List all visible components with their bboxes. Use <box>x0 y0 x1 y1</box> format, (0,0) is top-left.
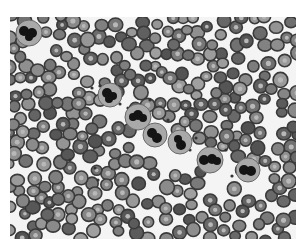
red-blood-cell <box>204 232 217 239</box>
red-blood-cell <box>207 40 218 50</box>
red-blood-cell <box>254 219 265 230</box>
red-blood-cell <box>87 224 101 238</box>
red-blood-cell <box>277 196 290 207</box>
red-blood-cell <box>81 208 96 222</box>
red-blood-cell <box>84 52 98 65</box>
red-blood-cell <box>152 20 163 30</box>
red-blood-cell <box>143 217 154 227</box>
red-blood-cell <box>272 143 285 155</box>
red-blood-cell <box>174 204 186 215</box>
red-blood-cell <box>137 26 150 39</box>
red-blood-cell <box>10 201 16 212</box>
platelet <box>230 174 233 177</box>
red-blood-cell <box>66 213 77 224</box>
red-blood-cell <box>191 177 205 189</box>
red-blood-cell <box>129 155 144 169</box>
red-blood-cell <box>52 98 63 109</box>
red-blood-cell <box>86 123 98 134</box>
red-blood-cell <box>53 29 65 39</box>
red-blood-cell <box>140 60 151 71</box>
red-blood-cell <box>134 85 148 99</box>
red-blood-cell <box>142 199 153 209</box>
platelet <box>194 136 197 139</box>
red-blood-cell <box>116 186 130 200</box>
red-blood-cell <box>201 72 212 81</box>
red-blood-cell <box>285 17 296 28</box>
red-blood-cell <box>113 226 123 236</box>
red-blood-cell <box>37 157 51 171</box>
red-blood-cell <box>277 98 288 108</box>
red-blood-cell <box>132 177 145 190</box>
red-blood-cell <box>26 138 38 151</box>
red-blood-cell <box>63 128 77 140</box>
red-blood-cell <box>81 76 94 87</box>
micrograph-frame <box>10 17 296 239</box>
red-blood-cell <box>125 69 136 80</box>
red-blood-cell <box>204 218 218 232</box>
nucleus-lobe <box>139 114 147 122</box>
red-blood-cell <box>180 116 191 127</box>
red-blood-cell <box>240 134 251 146</box>
red-blood-cell <box>281 174 296 189</box>
red-blood-cell <box>251 141 265 156</box>
red-blood-cell <box>15 231 29 239</box>
red-blood-cell <box>10 225 15 236</box>
platelet <box>60 148 63 151</box>
nucleus-lobe <box>105 95 113 103</box>
red-blood-cell <box>10 101 20 112</box>
red-blood-cell <box>163 26 174 37</box>
red-blood-cell <box>102 200 113 211</box>
red-blood-cell <box>145 73 156 83</box>
red-blood-cell <box>150 33 161 43</box>
red-blood-cell <box>170 170 181 182</box>
red-blood-cell <box>217 58 228 68</box>
red-blood-cell <box>29 229 42 239</box>
red-blood-cell <box>269 22 282 34</box>
red-blood-cell <box>217 17 230 27</box>
red-blood-cell <box>148 168 160 180</box>
red-blood-cell <box>250 112 263 124</box>
red-blood-cell <box>28 172 41 186</box>
red-blood-cell <box>80 32 94 47</box>
red-blood-cell <box>218 225 230 236</box>
red-blood-cell <box>211 88 222 98</box>
red-blood-cell <box>91 165 102 175</box>
nucleus-lobe <box>246 166 256 176</box>
red-blood-cell <box>88 135 102 148</box>
platelet <box>93 166 96 169</box>
red-blood-cell <box>39 181 51 192</box>
red-blood-cell <box>95 19 108 31</box>
red-blood-cell <box>122 38 136 51</box>
white-blood-cell <box>143 123 167 147</box>
red-blood-cell <box>290 86 296 101</box>
red-blood-cell <box>208 98 221 110</box>
red-blood-cell <box>55 17 66 21</box>
red-blood-cell <box>265 84 276 94</box>
red-blood-cell <box>235 17 248 24</box>
red-blood-cell <box>192 37 206 51</box>
red-blood-cell <box>44 59 55 71</box>
red-blood-cell <box>104 36 115 47</box>
red-blood-cell <box>10 17 18 21</box>
red-blood-cell <box>220 212 231 222</box>
red-blood-cell <box>259 156 271 166</box>
red-blood-cell <box>182 26 193 35</box>
platelet <box>224 148 227 151</box>
red-blood-cell <box>22 98 35 110</box>
red-blood-cell <box>69 70 80 79</box>
red-blood-cell <box>51 45 62 57</box>
red-blood-cell <box>271 39 285 51</box>
red-blood-cell <box>160 233 173 239</box>
red-blood-cell <box>77 131 88 141</box>
white-blood-cell <box>236 158 260 182</box>
red-blood-cell <box>184 84 194 93</box>
red-blood-cell <box>160 180 175 195</box>
red-blood-cell <box>278 54 291 66</box>
red-blood-cell <box>17 126 29 138</box>
red-blood-cell <box>110 149 121 158</box>
red-blood-cell <box>290 151 296 163</box>
red-blood-cell <box>235 102 246 113</box>
red-blood-cell <box>52 193 64 205</box>
red-blood-cell <box>186 200 197 210</box>
red-blood-cell <box>10 60 16 74</box>
